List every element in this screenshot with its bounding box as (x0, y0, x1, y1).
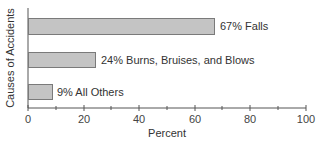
bar-label-burns: 24% Burns, Bruises, and Blows (101, 54, 254, 66)
x-tick-80: 80 (244, 113, 256, 125)
bar-others (28, 84, 53, 100)
x-tick-100: 100 (297, 113, 315, 125)
x-tick-20: 20 (78, 113, 90, 125)
x-tick-0: 0 (25, 113, 31, 125)
bar-burns (28, 52, 96, 68)
x-tick-60: 60 (189, 113, 201, 125)
bar-falls (28, 18, 215, 35)
bar-chart: Causes of Accidents 67% Falls 24% Burns,… (0, 0, 332, 143)
bar-label-falls: 67% Falls (220, 20, 268, 32)
x-axis-label: Percent (148, 127, 186, 139)
bar-label-others: 9% All Others (57, 86, 124, 98)
x-tick-40: 40 (133, 113, 145, 125)
